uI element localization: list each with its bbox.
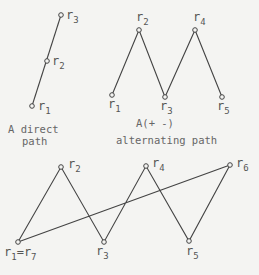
- label-r5: r5: [217, 99, 230, 116]
- direct-path-diagram: r3 r2 r1 A direct path: [8, 8, 79, 147]
- label-r1-eq-r7: r1=r7: [4, 245, 37, 262]
- cycle-diagram: r1=r7 r2 r3 r4 r5 r6: [4, 156, 249, 262]
- label-r4: r4: [152, 156, 165, 173]
- label-r5: r5: [186, 244, 199, 261]
- node-r2: [45, 59, 50, 64]
- node-r1: [16, 240, 21, 245]
- label-r2: r2: [136, 10, 149, 27]
- label-r1: r1: [38, 99, 51, 116]
- caption-direct-line1: A direct: [8, 123, 59, 135]
- alternating-path-diagram: r1 r2 r3 r4 r5 A(+ -) alternating path: [108, 10, 230, 146]
- node-r5: [187, 239, 192, 244]
- node-r2: [59, 165, 64, 170]
- label-r6: r6: [236, 156, 249, 173]
- node-r4: [193, 28, 198, 33]
- caption-direct-line2: path: [22, 135, 47, 147]
- node-r1: [30, 104, 35, 109]
- alternating-edges: [112, 30, 222, 97]
- label-r2: r2: [68, 157, 81, 174]
- label-r3: r3: [66, 8, 79, 25]
- node-r4: [144, 164, 149, 169]
- cycle-edges: [18, 165, 230, 242]
- label-r3: r3: [160, 99, 173, 116]
- node-r3: [59, 13, 64, 18]
- label-r1: r1: [108, 97, 121, 114]
- node-r2: [137, 28, 142, 33]
- label-r3: r3: [96, 244, 109, 261]
- caption-alt-line2: alternating path: [116, 134, 217, 146]
- path-diagrams: r3 r2 r1 A direct path r1 r2 r3 r4 r5 A(…: [0, 0, 259, 275]
- caption-alt-line1: A(+ -): [136, 117, 174, 129]
- label-r2: r2: [52, 54, 65, 71]
- node-r6: [228, 163, 233, 168]
- label-r4: r4: [193, 10, 206, 27]
